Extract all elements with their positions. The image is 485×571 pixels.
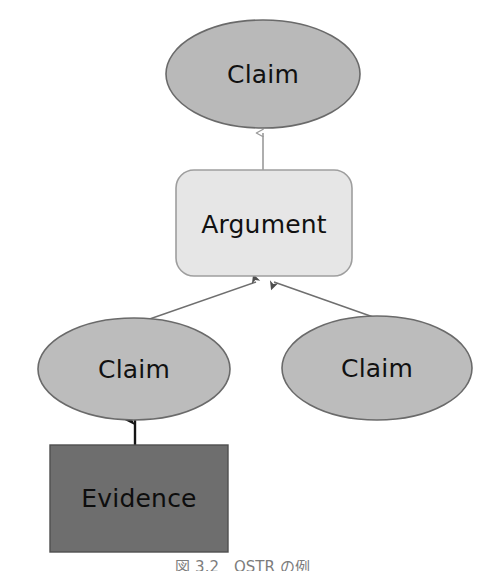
claim-top-label: Claim [227,60,299,89]
figure-caption-strip: 図 3.2 OSTR の例 [0,560,485,571]
claim-left-label: Claim [98,355,170,384]
evidence-label: Evidence [81,484,196,513]
claim-right-label: Claim [341,354,413,383]
node-evidence[interactable]: Evidence [50,445,228,552]
edge-claim-right-to-argument [274,282,376,318]
node-claim-top[interactable]: Claim [166,20,360,128]
argumentation-diagram: Claim Argument Claim Claim Evidence [0,0,485,571]
figure-caption: 図 3.2 OSTR の例 [0,560,485,571]
argument-label: Argument [201,210,327,239]
node-claim-right[interactable]: Claim [282,316,472,420]
edge-claim-left-to-argument [141,282,256,322]
node-argument[interactable]: Argument [176,170,352,276]
diagram-canvas: Claim Argument Claim Claim Evidence 図 3.… [0,0,485,571]
node-claim-left[interactable]: Claim [38,318,230,420]
